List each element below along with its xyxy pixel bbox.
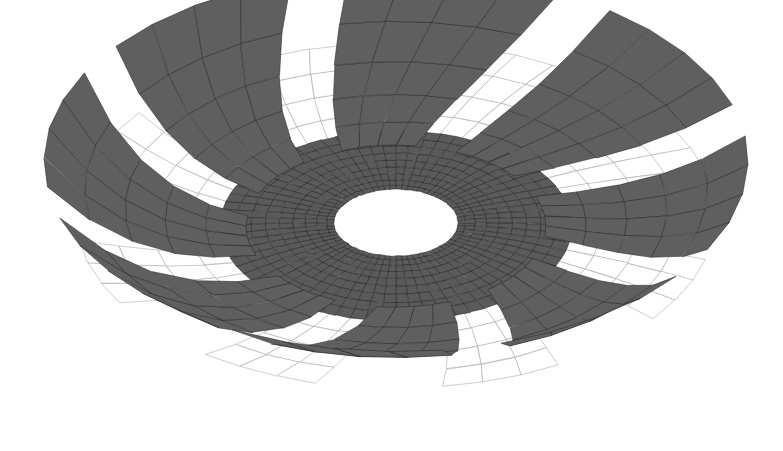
hub-quad-face: [499, 223, 512, 229]
hub-quad-face: [396, 271, 405, 278]
hub-quad-face: [371, 146, 385, 154]
hub-quad-face: [385, 153, 396, 160]
hub-quad-face: [527, 217, 542, 224]
hub-quad-face: [387, 271, 396, 278]
hub-quad-face: [457, 223, 465, 226]
blade-front-quad-face: [209, 244, 256, 257]
hub-quad-face: [396, 180, 403, 186]
hub-quad-face: [386, 160, 397, 167]
hub-quad-face: [457, 219, 465, 222]
hub-quad-face: [389, 260, 396, 265]
hub-quad-face: [292, 218, 305, 223]
hub-quad-face: [388, 174, 396, 180]
hub-quad-face: [251, 224, 266, 232]
hub-quad-face: [524, 211, 541, 218]
blade-front-quad-face: [583, 202, 627, 219]
hub-quad-face: [396, 145, 408, 153]
hub-quad-face: [305, 219, 317, 223]
hub-quad-face: [293, 223, 306, 228]
hub-quad-face: [327, 223, 334, 227]
hub-quad-face: [251, 217, 266, 224]
hub-quad-face: [404, 271, 414, 278]
hub-quad-face: [279, 223, 293, 229]
hub-quad-face: [383, 146, 396, 154]
hub-quad-face: [265, 218, 279, 223]
hub-bore-ellipse: [337, 201, 455, 251]
impeller-mesh-svg: [0, 0, 783, 451]
hub-quad-face: [266, 212, 282, 218]
hub-quad-face: [512, 218, 527, 224]
hub-quad-face: [522, 204, 539, 211]
hub-quad-face: [382, 180, 389, 185]
hub-quad-face: [406, 286, 418, 294]
mesh-viewport: [0, 0, 783, 451]
hub-quad-face: [305, 223, 317, 227]
hub-quad-face: [487, 218, 500, 223]
hub-quad-face: [405, 278, 416, 286]
hub-quad-face: [396, 260, 403, 266]
hub-quad-face: [252, 211, 267, 218]
blade-front-quad-face: [625, 216, 667, 237]
hub-quad-face: [465, 223, 475, 226]
hub-quad-face: [407, 293, 421, 302]
hub-quad-face: [396, 278, 406, 286]
hub-quad-face: [387, 167, 396, 174]
blade-front-quad-face: [541, 205, 586, 218]
hub-quad-face: [265, 223, 280, 230]
hub-quad-face: [475, 222, 487, 226]
hub-quad-face: [390, 256, 396, 260]
hub-quad-face: [389, 180, 396, 185]
hub-quad-face: [396, 153, 408, 160]
hub-quad-face: [396, 160, 406, 167]
hub-quad-face: [511, 212, 526, 218]
hub-quad-face: [384, 294, 397, 303]
hub-quad-face: [317, 226, 328, 230]
hub-quad-face: [499, 218, 512, 223]
hub-quad-face: [396, 286, 408, 294]
hub-quad-face: [279, 218, 293, 223]
hub-quad-face: [396, 256, 403, 260]
hub-quad-face: [385, 286, 397, 294]
hub-quad-face: [384, 185, 390, 189]
hub-quad-face: [390, 185, 396, 189]
hub-quad-face: [475, 218, 486, 222]
hub-quad-face: [498, 212, 512, 218]
hub-quad-face: [403, 265, 412, 272]
hub-quad-face: [396, 294, 409, 303]
blade-front-quad-face: [333, 96, 364, 127]
hub-quad-face: [396, 186, 402, 190]
hub-quad-face: [465, 219, 476, 223]
hub-quad-face: [396, 265, 404, 272]
blade-front-quad-face: [241, 0, 291, 43]
hub-quad-face: [316, 219, 327, 223]
hub-quad-face: [396, 167, 406, 174]
hub-quad-face: [293, 227, 307, 232]
hub-bore-layer: [337, 201, 455, 251]
hub-quad-face: [316, 223, 327, 226]
